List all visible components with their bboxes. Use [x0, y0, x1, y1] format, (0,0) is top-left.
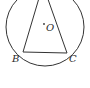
- geometry-figure: O B C: [0, 0, 90, 88]
- label-o: O: [46, 22, 54, 33]
- center-point-o: [43, 23, 45, 25]
- label-c: C: [69, 53, 77, 64]
- segment-bc: [23, 52, 67, 53]
- segment-ab: [23, 0, 42, 52]
- label-b: B: [11, 53, 19, 64]
